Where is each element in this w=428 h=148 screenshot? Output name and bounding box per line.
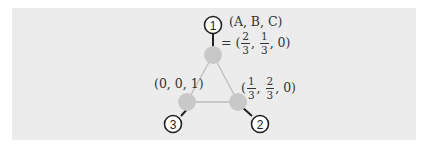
badge-2-label: 2 <box>257 118 264 132</box>
fraction: 13 <box>247 76 256 100</box>
node-1-label-line1: (A, B, C) <box>229 16 282 29</box>
fraction: 23 <box>266 76 275 100</box>
badge-3-label: 3 <box>170 118 177 132</box>
node-3-label: (0, 0, 1) <box>154 78 204 91</box>
node-3 <box>178 93 196 111</box>
triangle-graph: 1 3 2 <box>0 0 428 148</box>
fraction: 13 <box>260 31 269 55</box>
fraction: 23 <box>241 31 250 55</box>
node-2-label: (13, 23, 0) <box>241 76 296 100</box>
node-1 <box>204 46 222 64</box>
badge-1-label: 1 <box>210 19 217 33</box>
node-1-label-line2: = (23, 13, 0) <box>221 31 290 55</box>
